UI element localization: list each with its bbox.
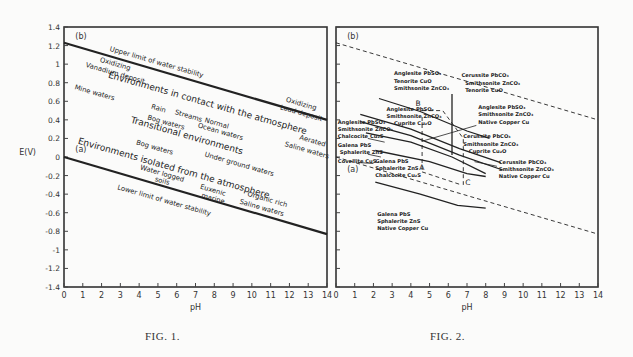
annotation-text: Sphalerite ZnS — [375, 165, 419, 172]
fig2-caption: FIG. 2. — [430, 330, 465, 342]
annotation-text: Cuprite Cu₂O — [469, 148, 507, 155]
annotation-text: Smithsonite ZnCO₃ — [463, 141, 518, 147]
annotation-text: Smithsonite ZnCO₃ — [499, 166, 554, 172]
pointer-arrow — [474, 162, 496, 167]
annotation-text: Covellite CuS — [338, 158, 377, 164]
figure-page: 01234567891011121314pH1.41.210.80.60.40.… — [0, 0, 633, 357]
annotation-text: Chalcocite Cu₂S — [338, 133, 384, 139]
x-tick-label: 12 — [555, 291, 565, 300]
x-tick-label: 3 — [390, 291, 395, 300]
x-tick-label: 2 — [371, 291, 376, 300]
fig1-caption: FIG. 1. — [145, 330, 180, 342]
x-tick-label: 9 — [502, 291, 507, 300]
annotation-text: Sphalerite ZnS — [377, 218, 421, 225]
x-tick-label: 6 — [446, 291, 451, 300]
annotation-text: Anglesite PbSO₄ — [394, 70, 442, 77]
x-tick-label: 1 — [352, 291, 357, 300]
annotation-text: Native Copper Cu — [377, 225, 428, 232]
annotation-text: Smithsonite ZnCO₃ — [465, 80, 520, 86]
annotation-text: Chalcocite Cu₂S — [375, 172, 421, 178]
annotation-text: Tenorite CuO — [394, 78, 432, 84]
point-label: C — [465, 178, 470, 187]
x-tick-label: 0 — [333, 291, 338, 300]
annotation-text: Cerussite PbCO₃ — [463, 133, 510, 139]
annotation-text: Anglesite PbSO₄ — [338, 119, 386, 126]
point-label: A — [419, 163, 425, 172]
annotation-text: Anglesite PbSO₄ — [387, 106, 435, 113]
annotation-text: Sphalerite ZnS — [340, 149, 384, 156]
series-line — [422, 172, 461, 185]
x-tick-label: 13 — [574, 291, 584, 300]
line-b-label: (b) — [347, 32, 358, 41]
annotation-text: Smithsonite ZnCO₃ — [387, 113, 442, 119]
annotation-text: Anglesite PbSO₄ — [478, 104, 526, 111]
annotation-text: Smithsonite ZnCO₃ — [338, 126, 393, 132]
annotation-text: Cerussite PbCO₃ — [499, 159, 546, 165]
annotation-text: Native Copper Cu — [499, 173, 550, 180]
line-a-label: (a) — [347, 165, 358, 174]
x-tick-label: 5 — [427, 291, 432, 300]
annotation-text: Cuprite Cu₂O — [394, 120, 432, 127]
annotation-text: Smithsonite ZnCO₃ — [478, 111, 533, 117]
x-axis-label: pH — [461, 303, 472, 312]
x-tick-label: 7 — [464, 291, 469, 300]
fig2-chart: 01234567891011121314pH(b)(a)ABCAnglesite… — [0, 0, 633, 357]
annotation-text: Galena PbS — [375, 158, 409, 164]
x-tick-label: 11 — [537, 291, 547, 300]
x-tick-label: 14 — [593, 291, 603, 300]
annotation-text: Galena PbS — [377, 211, 411, 217]
annotation-text: Smithsonite ZnCO₃ — [394, 85, 449, 91]
annotation-text: Cerussite PbCO₃ — [461, 72, 508, 78]
x-tick-label: 4 — [408, 291, 413, 300]
x-tick-label: 8 — [483, 291, 488, 300]
x-tick-label: 10 — [518, 291, 528, 300]
annotation-text: Tenorite CuO — [465, 87, 503, 93]
annotation-text: Native Copper Cu — [478, 119, 529, 126]
annotation-text: Galena PbS — [338, 142, 372, 148]
